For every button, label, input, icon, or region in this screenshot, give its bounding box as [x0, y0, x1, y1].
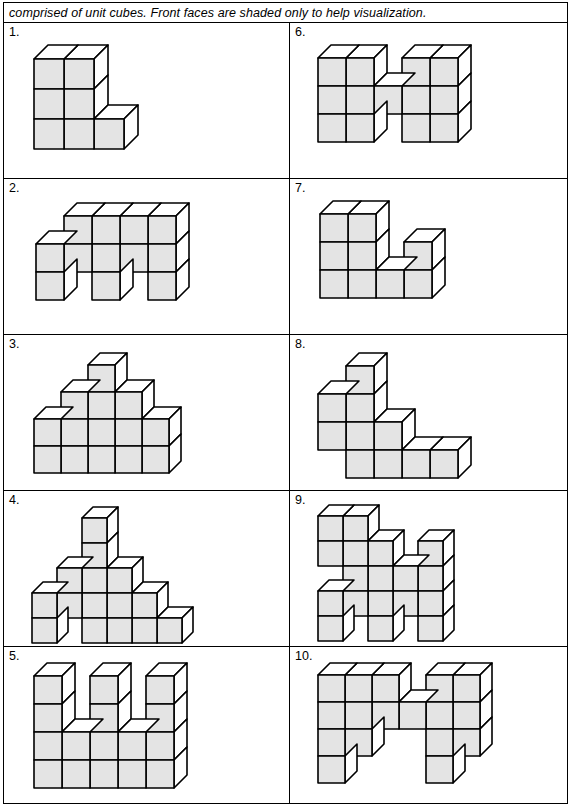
problem-cell-7[interactable]: 7. [290, 179, 567, 335]
problem-cell-3[interactable]: 3. [4, 335, 290, 491]
problem-cell-1[interactable]: 1. [4, 23, 290, 179]
problem-cell-2[interactable]: 2. [4, 179, 290, 335]
cube-figure-8 [290, 335, 567, 490]
problem-cell-8[interactable]: 8. [290, 335, 567, 491]
worksheet-page: comprised of unit cubes. Front faces are… [0, 0, 571, 807]
problem-cell-10[interactable]: 10. [290, 647, 567, 803]
cube-figure-5 [4, 647, 289, 803]
problem-cell-6[interactable]: 6. [290, 23, 567, 179]
problem-cell-4[interactable]: 4. [4, 491, 290, 647]
cube-figure-4 [4, 491, 289, 646]
cube-figure-10 [290, 647, 567, 803]
problem-cell-9[interactable]: 9. [290, 491, 567, 647]
cube-figure-9 [290, 491, 567, 646]
problem-grid: 1. 6. 2. 7. 3. 8. 4. 9. [3, 22, 568, 804]
cube-figure-2 [4, 179, 289, 334]
cube-figure-6 [290, 23, 567, 178]
cube-figure-1 [4, 23, 289, 178]
instruction-header: comprised of unit cubes. Front faces are… [3, 2, 568, 22]
problem-cell-5[interactable]: 5. [4, 647, 290, 803]
instruction-text: comprised of unit cubes. Front faces are… [9, 6, 426, 20]
cube-figure-3 [4, 335, 289, 490]
cube-figure-7 [290, 179, 567, 334]
